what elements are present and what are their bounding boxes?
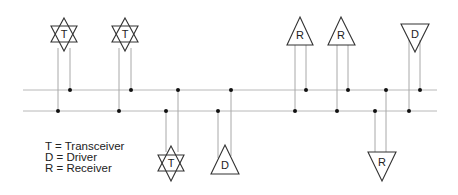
node-label: T: [122, 28, 129, 40]
junction-dot: [407, 109, 411, 113]
receiver-node-3: R: [368, 88, 396, 181]
driver-node-2: D: [401, 24, 429, 113]
junction-dot: [384, 88, 388, 92]
junction-dot: [164, 109, 168, 113]
transceiver-node-2: T: [112, 18, 138, 113]
junction-dot: [68, 88, 72, 92]
junction-dot: [293, 109, 297, 113]
junction-dot: [304, 88, 308, 92]
node-label: D: [411, 28, 419, 40]
legend-item-receiver: R = Receiver: [45, 162, 112, 174]
node-label: D: [221, 159, 229, 171]
junction-dot: [335, 109, 339, 113]
node-label: T: [61, 28, 68, 40]
legend: T = Transceiver D = Driver R = Receiver: [45, 140, 125, 174]
junction-dot: [229, 88, 233, 92]
junction-dot: [216, 109, 220, 113]
node-label: T: [168, 157, 175, 169]
junction-dot: [117, 109, 121, 113]
junction-dot: [176, 88, 180, 92]
node-label: R: [378, 156, 386, 168]
node-label: R: [296, 29, 304, 41]
node-label: R: [337, 29, 345, 41]
transceiver-node-1: T: [51, 18, 77, 113]
junction-dot: [418, 88, 422, 92]
receiver-node-2: R: [328, 17, 355, 113]
junction-dot: [56, 109, 60, 113]
bus-diagram: T T T D R: [0, 0, 458, 195]
receiver-node-1: R: [287, 17, 313, 113]
junction-dot: [346, 88, 350, 92]
junction-dot: [373, 109, 377, 113]
driver-node-1: D: [211, 88, 239, 174]
junction-dot: [129, 88, 133, 92]
transceiver-node-3: T: [158, 88, 184, 181]
